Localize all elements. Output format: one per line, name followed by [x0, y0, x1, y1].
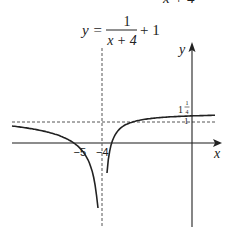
equation-title: y = 1 x + 4 + 1: [80, 14, 160, 48]
equation-rhs: + 1: [140, 22, 160, 38]
cropped-title-fragment: x + 4: [162, 0, 195, 6]
x-axis-label: x: [213, 146, 221, 161]
curve-right-branch: [107, 115, 215, 173]
equation-lhs: y =: [80, 22, 103, 38]
y-axis-label: y: [177, 42, 186, 57]
y-tick-whole: 1: [178, 104, 183, 115]
y-tick-label-1-quarter: 1 1 4: [178, 100, 190, 115]
curve-left-branch: [12, 126, 98, 208]
function-graph: x + 4 y = 1 x + 4 + 1 x y −5 −4 1 1 4 1: [0, 0, 235, 227]
x-tick-label: −4: [96, 146, 109, 158]
y-tick-label: 1: [184, 116, 189, 126]
equation-denominator: x + 4: [106, 33, 137, 48]
equation-numerator: 1: [124, 14, 131, 29]
y-tick-numerator: 1: [186, 100, 189, 106]
y-tick-denominator: 4: [186, 109, 189, 115]
